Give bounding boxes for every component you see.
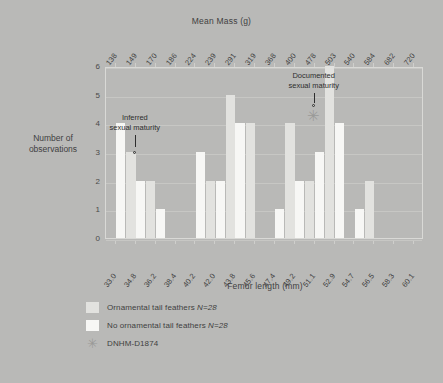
bar-no-ornamental	[355, 209, 364, 238]
bar-no-ornamental	[216, 181, 225, 238]
top-tick-label: 368	[263, 51, 278, 67]
top-tick-label: 540	[342, 51, 357, 67]
bar-ornamental	[126, 152, 135, 238]
top-tick-label: 478	[303, 51, 318, 67]
top-tick-label: 319	[243, 51, 258, 67]
no-ornamental-swatch	[86, 320, 99, 331]
top-axis-title: Mean Mass (g)	[0, 16, 443, 26]
documented-sexual-maturity-leader-line	[314, 93, 315, 103]
inferred-sexual-maturity-label: Inferredsexual maturity	[75, 113, 195, 132]
bar-ornamental	[365, 181, 374, 238]
bar-no-ornamental	[156, 209, 165, 238]
top-tick-label: 239	[203, 51, 218, 67]
inferred-sexual-maturity-marker-dot	[133, 151, 136, 154]
gridline	[106, 97, 422, 98]
bar-ornamental	[146, 181, 155, 238]
asterisk-marker-icon: ✳	[307, 108, 320, 123]
y-tick-label: 0	[80, 234, 100, 243]
y-tick-label: 6	[80, 62, 100, 71]
chart-root: Mean Mass (g) Number of observations 654…	[0, 0, 443, 383]
top-tick-label: 503	[322, 51, 337, 67]
top-tick-label: 149	[124, 51, 139, 67]
y-tick-label: 3	[80, 148, 100, 157]
gridline	[106, 154, 422, 155]
legend-item: ✳DNHM-D1874	[86, 335, 228, 351]
bar-no-ornamental	[315, 152, 324, 238]
bar-no-ornamental	[335, 123, 344, 238]
top-tick-label: 400	[283, 51, 298, 67]
legend-item: No ornamental tail feathers N=28	[86, 317, 228, 333]
top-tick-label: 720	[402, 51, 417, 67]
y-tick-label: 2	[80, 177, 100, 186]
inferred-sexual-maturity-leader-line	[135, 135, 136, 147]
annotation-line1: Inferred	[75, 113, 195, 123]
bar-no-ornamental	[275, 209, 284, 238]
bar-ornamental	[206, 181, 215, 238]
asterisk-marker: ✳	[86, 338, 99, 349]
y-tick-label: 5	[80, 91, 100, 100]
top-tick-label: 224	[183, 51, 198, 67]
documented-sexual-maturity-label: Documentedsexual maturity	[254, 71, 374, 90]
bar-ornamental	[285, 123, 294, 238]
top-tick-label: 291	[223, 51, 238, 67]
top-tick-label: 186	[163, 51, 178, 67]
legend-label: DNHM-D1874	[107, 339, 158, 348]
top-tick-label: 682	[382, 51, 397, 67]
gridline	[106, 240, 422, 241]
top-tick-label: 170	[144, 51, 159, 67]
bar-no-ornamental	[136, 181, 145, 238]
bar-no-ornamental	[295, 181, 304, 238]
bar-no-ornamental	[116, 123, 125, 238]
gridline	[106, 68, 422, 69]
bar-ornamental	[325, 66, 334, 238]
bottom-axis-title: Femur length (mm)	[105, 281, 425, 291]
y-tick-label: 1	[80, 205, 100, 214]
bar-no-ornamental	[235, 123, 244, 238]
annotation-line1: Documented	[254, 71, 374, 81]
annotation-line2: sexual maturity	[254, 81, 374, 91]
bar-no-ornamental	[196, 152, 205, 238]
ornamental-swatch	[86, 302, 99, 313]
top-tick-label: 138	[104, 51, 119, 67]
bar-ornamental	[246, 123, 255, 238]
legend-label: No ornamental tail feathers N=28	[107, 321, 228, 330]
bar-ornamental	[226, 95, 235, 238]
annotation-line2: sexual maturity	[75, 123, 195, 133]
bar-ornamental	[305, 181, 314, 238]
legend: Ornamental tail feathers N=28No ornament…	[86, 299, 228, 353]
legend-label: Ornamental tail feathers N=28	[107, 303, 217, 312]
legend-item: Ornamental tail feathers N=28	[86, 299, 228, 315]
top-tick-label: 584	[362, 51, 377, 67]
plot-area	[105, 67, 423, 239]
